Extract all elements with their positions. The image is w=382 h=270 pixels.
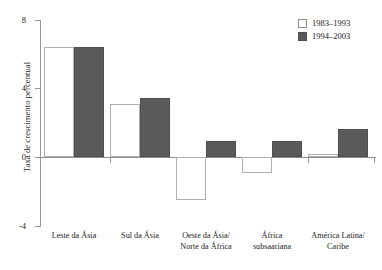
bar — [140, 98, 170, 157]
legend: 1983–1993 1994–2003 — [298, 18, 350, 44]
bar — [110, 104, 140, 157]
legend-swatch-hollow-icon — [298, 19, 307, 28]
category-label: Leste da Ásia — [41, 231, 107, 242]
y-tick-mark-4 — [35, 88, 40, 89]
bar — [242, 157, 272, 173]
category-label: Áfricasubsaariana — [239, 231, 305, 252]
legend-swatch-filled-icon — [298, 32, 307, 41]
legend-label: 1983–1993 — [312, 19, 350, 28]
category-label-line: Sul da Ásia — [107, 231, 173, 242]
bar — [206, 141, 236, 157]
bar — [308, 154, 338, 157]
bar — [272, 141, 302, 157]
y-tick-label-4: 4 — [0, 84, 26, 93]
y-axis-title: Taxa de crescimento percentual — [22, 32, 32, 202]
category-label-line: África — [239, 231, 305, 242]
group-separator — [374, 158, 375, 163]
bar — [44, 47, 74, 157]
bar-chart: Taxa de crescimento percentual 8 4 0 -4 … — [0, 0, 382, 270]
legend-item-1994-2003: 1994–2003 — [298, 31, 350, 42]
legend-item-1983-1993: 1983–1993 — [298, 18, 350, 29]
y-tick-label-8: 8 — [0, 16, 26, 25]
category-label-line: subsaariana — [239, 242, 305, 253]
category-label-line: Caribe — [305, 242, 371, 253]
category-label: Sul da Ásia — [107, 231, 173, 242]
y-tick-label-neg4: -4 — [0, 222, 26, 231]
category-label-line: Norte da África — [173, 242, 239, 253]
category-label-line: Oeste da Ásia/ — [173, 231, 239, 242]
y-tick-mark-8 — [35, 20, 40, 21]
group-separator — [308, 158, 309, 163]
category-label-line: América Latina/ — [305, 231, 371, 242]
bar — [176, 157, 206, 200]
bar — [338, 129, 368, 157]
category-label: Oeste da Ásia/Norte da África — [173, 231, 239, 252]
legend-label: 1994–2003 — [312, 32, 350, 41]
group-separator — [110, 158, 111, 163]
y-axis-line — [40, 20, 41, 227]
y-tick-label-0: 0 — [0, 153, 26, 162]
zero-baseline — [40, 157, 376, 158]
bar — [74, 47, 104, 157]
y-tick-mark-neg4 — [35, 226, 40, 227]
category-label: América Latina/Caribe — [305, 231, 371, 252]
category-label-line: Leste da Ásia — [41, 231, 107, 242]
